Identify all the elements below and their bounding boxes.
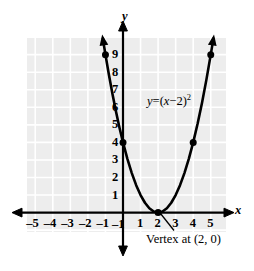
y-axis-label: y xyxy=(122,10,128,23)
equation-label: y=(x−2)2 xyxy=(147,93,191,108)
x-tick-label: 5 xyxy=(207,217,213,230)
x-axis-arrow-right xyxy=(224,208,234,217)
x-tick-label: 1 xyxy=(137,217,143,230)
y-tick-label: 2 xyxy=(112,171,118,184)
x-tick-label: 4 xyxy=(190,217,196,230)
x-tick-label: –1 xyxy=(96,217,109,230)
x-axis-arrow-left xyxy=(12,208,22,217)
y-tick-label: 7 xyxy=(112,83,118,96)
x-tick-label: –4 xyxy=(44,217,57,230)
y-tick-label: 3 xyxy=(112,153,118,166)
y-tick-label: 6 xyxy=(112,101,118,114)
y-tick-label: 8 xyxy=(112,66,118,79)
x-axis-label: x xyxy=(235,204,241,217)
vertex-annotation: Vertex at (2, 0) xyxy=(146,233,221,246)
graph-figure: y x y=(x−2)2 Vertex at (2, 0) –5–4–3–2–1… xyxy=(0,0,254,271)
parabola-plot xyxy=(0,0,254,271)
x-tick-label: 2 xyxy=(155,217,161,230)
x-tick-label: 3 xyxy=(172,217,178,230)
y-tick-label: 4 xyxy=(112,136,118,149)
equation-equals: = xyxy=(153,94,160,108)
y-tick-label: –1 xyxy=(112,218,125,231)
y-tick-label: 5 xyxy=(112,118,118,131)
y-tick-label: 9 xyxy=(112,48,118,61)
equation-exponent: 2 xyxy=(187,92,191,102)
data-point xyxy=(207,51,214,58)
data-point xyxy=(120,139,127,146)
x-tick-label: –2 xyxy=(79,217,92,230)
y-tick-label: 1 xyxy=(112,189,118,202)
x-tick-label: –5 xyxy=(26,217,39,230)
data-point xyxy=(190,139,197,146)
y-axis-arrow-down xyxy=(119,246,128,256)
x-tick-label: –3 xyxy=(61,217,74,230)
data-point xyxy=(102,51,109,58)
